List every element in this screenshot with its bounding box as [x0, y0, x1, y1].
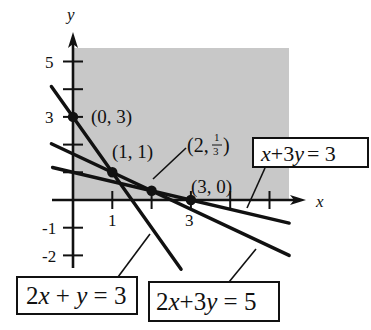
- point-label-2-prefix: (2,: [187, 134, 209, 157]
- eq3-y: y: [203, 288, 218, 315]
- tick-label-yn2: -2: [42, 247, 56, 266]
- lp-graph: y x 5 3 -1 -2 1 3 (0, 3) (1, 1) (2, 1 3 …: [0, 0, 371, 330]
- eq2-x: x: [38, 282, 50, 309]
- tick-label-y5: 5: [45, 53, 54, 72]
- vertex-point: [146, 186, 156, 196]
- tick-label-x3: 3: [185, 211, 194, 230]
- vertex-point: [107, 167, 117, 177]
- x-axis-label: x: [315, 192, 324, 211]
- eq2-rhs: = 3: [87, 282, 126, 309]
- point-label-1-1: (1, 1): [112, 141, 153, 163]
- svg-text:2x + y = 3: 2x + y = 3: [26, 282, 126, 309]
- eq1-y: y: [292, 141, 304, 166]
- eq1-x: x: [260, 141, 271, 166]
- eq2-y: y: [73, 282, 88, 309]
- eq1-plus3: +3: [271, 141, 294, 166]
- tick-label-y3: 3: [45, 108, 54, 127]
- eq3-plus3: +3: [180, 288, 207, 315]
- eq3-2: 2: [156, 288, 169, 315]
- equation-box-2x-3y-5: 2x+3y = 5: [149, 282, 279, 321]
- svg-text:x+3y= 3: x+3y= 3: [260, 141, 336, 166]
- point-label-3-0: (3, 0): [191, 176, 232, 198]
- leader-eq-2x-y-3: [118, 234, 150, 277]
- tick-label-yn1: -1: [42, 219, 56, 238]
- svg-text:2x+3y = 5: 2x+3y = 5: [156, 288, 256, 315]
- tick-label-x1: 1: [108, 211, 117, 230]
- point-label-2-close: ): [223, 134, 230, 157]
- leader-eq-2x-3y-5: [229, 249, 256, 282]
- eq2-plus: +: [50, 282, 77, 309]
- eq3-rhs: = 5: [217, 288, 256, 315]
- equation-box-2x-y-3: 2x + y = 3: [17, 277, 137, 314]
- eq3-x: x: [168, 288, 180, 315]
- point-label-2-third: (2, 1 3 ): [187, 131, 230, 157]
- point-label-2-denominator: 3: [213, 145, 219, 157]
- vertex-point: [68, 112, 78, 122]
- equation-box-x-3y-3: x+3y= 3: [253, 138, 368, 167]
- eq2-2: 2: [26, 282, 39, 309]
- point-label-2-numerator: 1: [214, 131, 220, 143]
- eq1-rhs: = 3: [307, 141, 336, 166]
- y-axis-label: y: [65, 5, 75, 24]
- point-label-0-3: (0, 3): [91, 106, 132, 128]
